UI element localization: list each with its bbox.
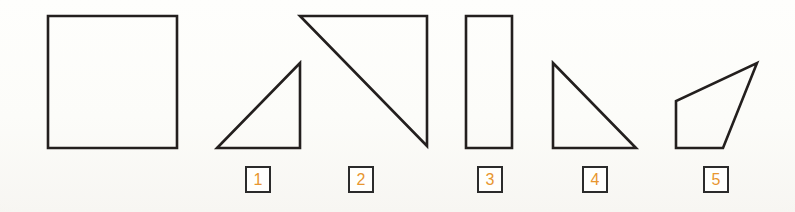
figure-right-triangle-4 xyxy=(553,63,636,148)
figure-square xyxy=(48,16,177,148)
figure-canvas: 12345 xyxy=(0,0,795,212)
label-1: 1 xyxy=(245,166,271,193)
figure-rectangle-3 xyxy=(466,16,512,148)
label-4: 4 xyxy=(582,166,608,193)
label-5-digit: 5 xyxy=(712,172,721,188)
label-2: 2 xyxy=(348,166,374,193)
label-1-digit: 1 xyxy=(254,172,263,188)
label-2-digit: 2 xyxy=(357,172,366,188)
figure-right-triangle-2 xyxy=(300,16,427,146)
shapes-layer xyxy=(0,0,795,212)
label-3-digit: 3 xyxy=(486,172,495,188)
label-3: 3 xyxy=(477,166,503,193)
label-4-digit: 4 xyxy=(591,172,600,188)
figure-quadrilateral-5 xyxy=(676,63,757,148)
label-5: 5 xyxy=(703,166,729,193)
figure-right-triangle-1 xyxy=(217,63,300,148)
